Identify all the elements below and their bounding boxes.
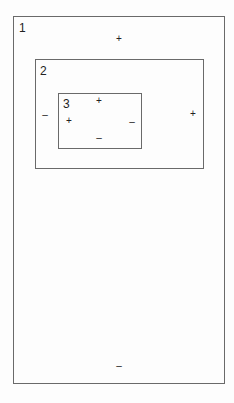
sign-box3-left: + [66, 116, 72, 126]
sign-box1-top: + [116, 34, 122, 44]
region-label-1: 1 [19, 22, 26, 34]
region-label-2: 2 [40, 65, 47, 77]
sign-box2-left: – [42, 110, 48, 120]
sign-box3-bottom: – [96, 133, 102, 143]
sign-box3-top: + [96, 96, 102, 106]
sign-box1-bottom: – [116, 361, 122, 371]
region-label-3: 3 [63, 98, 70, 110]
sign-box3-right: – [129, 117, 135, 127]
sign-box2-right: + [190, 109, 196, 119]
